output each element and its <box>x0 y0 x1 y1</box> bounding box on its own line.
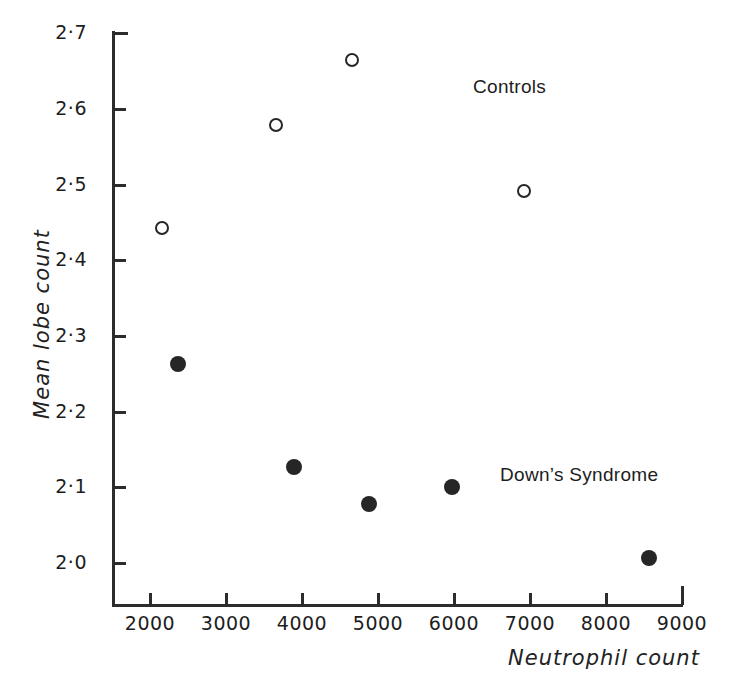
series-label-controls: Controls <box>473 76 546 98</box>
series-label-downs-syndrome: Down’s Syndrome <box>500 464 658 486</box>
y-axis-title: Mean lobe count <box>30 214 54 434</box>
y-tick-2-5 <box>115 184 126 187</box>
x-tick-label-6000: 6000 <box>414 612 494 634</box>
x-tick-label-4000: 4000 <box>262 612 342 634</box>
data-point-down-s-syndrome-1 <box>286 459 302 475</box>
data-point-controls-3 <box>517 184 531 198</box>
x-tick-label-5000: 5000 <box>338 612 418 634</box>
x-tick-label-2000: 2000 <box>110 612 190 634</box>
x-tick-8000 <box>605 593 608 605</box>
x-tick-9000 <box>681 586 684 605</box>
data-point-controls-0 <box>155 221 169 235</box>
x-axis-title: Neutrophil count <box>508 646 700 670</box>
y-tick-2-1 <box>115 486 126 489</box>
x-tick-label-7000: 7000 <box>490 612 570 634</box>
x-tick-label-9000: 9000 <box>642 612 722 634</box>
x-tick-label-3000: 3000 <box>186 612 266 634</box>
x-tick-5000 <box>377 593 380 605</box>
x-tick-6000 <box>453 593 456 605</box>
y-tick-2-2 <box>115 411 126 414</box>
data-point-controls-2 <box>345 53 359 67</box>
y-tick-2 <box>115 562 126 565</box>
y-axis-line <box>112 31 115 607</box>
y-tick-2-6 <box>115 108 126 111</box>
x-tick-label-8000: 8000 <box>566 612 646 634</box>
y-tick-label-2-7: 2·7 <box>7 21 87 43</box>
y-tick-2-7 <box>115 32 128 35</box>
data-point-down-s-syndrome-4 <box>641 550 657 566</box>
data-point-controls-1 <box>269 118 283 132</box>
x-tick-3000 <box>225 593 228 605</box>
y-tick-label-2-1: 2·1 <box>7 475 87 497</box>
x-tick-2000 <box>149 593 152 605</box>
y-tick-2-3 <box>115 335 126 338</box>
x-tick-4000 <box>301 593 304 605</box>
y-tick-label-2-5: 2·5 <box>7 173 87 195</box>
y-tick-2-4 <box>115 259 126 262</box>
data-point-down-s-syndrome-2 <box>361 496 377 512</box>
x-tick-7000 <box>529 593 532 605</box>
y-tick-label-2-6: 2·6 <box>7 97 87 119</box>
data-point-down-s-syndrome-0 <box>170 356 186 372</box>
y-tick-label-2: 2·0 <box>7 551 87 573</box>
scatter-plot-figure: 2·02·12·22·32·42·52·62·7 200030004000500… <box>0 0 733 696</box>
data-point-down-s-syndrome-3 <box>444 479 460 495</box>
x-axis-line <box>112 604 683 607</box>
